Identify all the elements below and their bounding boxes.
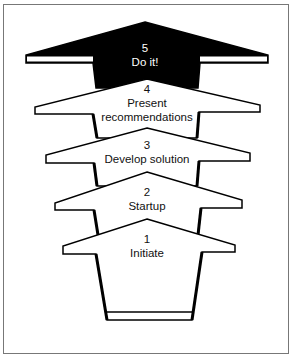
step-3-label: 3 Develop solution: [67, 138, 227, 166]
step-2-number: 2: [67, 185, 227, 199]
step-5-label: 5 Do it!: [65, 41, 225, 69]
step-3-number: 3: [67, 138, 227, 152]
step-5-text: Do it!: [65, 55, 225, 69]
step-3-text: Develop solution: [67, 152, 227, 166]
step-1-number: 1: [67, 232, 227, 246]
step-4-number: 4: [67, 82, 227, 96]
step-4-text-2: recommendations: [67, 110, 227, 124]
step-4-text: Present: [67, 96, 227, 110]
step-1-text: Initiate: [67, 246, 227, 260]
step-5-number: 5: [65, 41, 225, 55]
step-1-label: 1 Initiate: [67, 232, 227, 260]
step-2-label: 2 Startup: [67, 185, 227, 213]
step-2-text: Startup: [67, 199, 227, 213]
step-4-label: 4 Present recommendations: [67, 82, 227, 124]
